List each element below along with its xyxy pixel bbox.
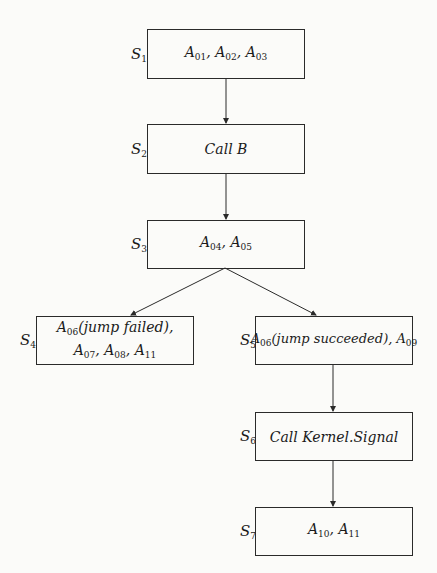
state-letter: S [240, 522, 250, 540]
flowchart-diagram: S1 A01, A02, A03 S2 Call B S3 A04, A05 S… [0, 0, 437, 573]
state-label-s3: S3 [131, 235, 147, 254]
state-letter: S [131, 235, 141, 253]
state-label-s4: S4 [20, 331, 36, 350]
node-s6: Call Kernel.Signal [255, 412, 413, 461]
node-s5-text: A06(jump succeeded), A09 [251, 330, 418, 352]
edge-s3-s4 [131, 268, 225, 315]
node-s1-text: A01, A02, A03 [185, 43, 268, 66]
node-s1: A01, A02, A03 [147, 29, 305, 79]
state-letter: S [240, 331, 250, 349]
state-letter: S [131, 45, 141, 63]
node-s6-text: Call Kernel.Signal [270, 428, 399, 446]
node-s2: Call B [147, 124, 305, 174]
state-letter: S [131, 140, 141, 158]
state-label-s1: S1 [131, 45, 147, 64]
state-label-s6: S6 [240, 427, 256, 446]
node-s7: A10, A11 [255, 507, 413, 556]
state-letter: S [20, 331, 30, 349]
node-s4-text: A06(jump failed),A07, A08, A11 [57, 318, 174, 364]
node-s5: A06(jump succeeded), A09 [255, 316, 413, 365]
node-s3-text: A04, A05 [200, 233, 252, 256]
state-label-s7: S7 [240, 522, 256, 541]
node-s3: A04, A05 [147, 220, 305, 269]
edges-layer [0, 0, 437, 573]
edge-s3-s5 [225, 268, 316, 315]
node-s2-text: Call B [205, 140, 248, 158]
node-s4: A06(jump failed),A07, A08, A11 [36, 316, 194, 365]
state-letter: S [240, 427, 250, 445]
state-label-s2: S2 [131, 140, 147, 159]
node-s7-text: A10, A11 [308, 520, 360, 543]
